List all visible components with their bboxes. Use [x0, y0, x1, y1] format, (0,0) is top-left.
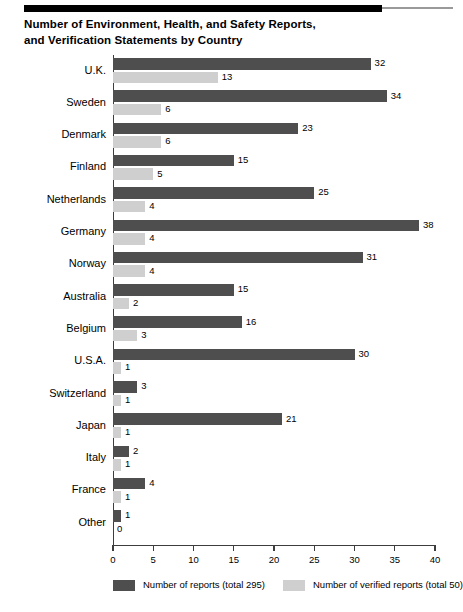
x-tick: [193, 545, 194, 551]
legend-label: Number of reports (total 295): [143, 579, 265, 590]
x-tick-label: 5: [138, 554, 168, 565]
bar-value-label: 6: [165, 103, 170, 114]
bar-value-label: 15: [238, 154, 249, 165]
bar-reports: [113, 349, 355, 361]
bar-value-label: 6: [165, 135, 170, 146]
x-tick: [354, 545, 355, 551]
x-tick-label: 35: [380, 554, 410, 565]
bar-value-label: 4: [149, 265, 154, 276]
bar-verified-reports: [113, 72, 218, 84]
x-tick: [434, 545, 435, 551]
category-label: Norway: [0, 257, 106, 269]
chart-row: U.S.A.301: [0, 349, 453, 374]
bar-value-label: 3: [141, 329, 146, 340]
category-label: Belgium: [0, 322, 106, 334]
bar-verified-reports: [113, 201, 145, 213]
x-tick: [273, 545, 274, 551]
bar-reports: [113, 316, 242, 328]
bar-reports: [113, 510, 121, 522]
chart-legend: Number of reports (total 295)Number of v…: [0, 578, 453, 598]
bar-value-label: 23: [302, 122, 313, 133]
x-tick-label: 40: [420, 554, 450, 565]
category-label: Finland: [0, 160, 106, 172]
bar-value-label: 1: [125, 426, 130, 437]
bar-value-label: 4: [149, 477, 154, 488]
bar-value-label: 34: [391, 90, 402, 101]
bar-verified-reports: [113, 265, 145, 277]
chart-row: Switzerland31: [0, 381, 453, 406]
bar-reports: [113, 478, 145, 490]
bar-value-label: 38: [423, 219, 434, 230]
legend-swatch-verified: [283, 580, 305, 591]
header-hairline: [382, 7, 453, 9]
bar-verified-reports: [113, 136, 161, 148]
category-label: U.K.: [0, 64, 106, 76]
chart-row: Netherlands254: [0, 187, 453, 212]
bar-value-label: 4: [149, 200, 154, 211]
chart-row: Other10: [0, 510, 453, 535]
bar-verified-reports: [113, 395, 121, 407]
legend-label: Number of verified reports (total 50): [313, 579, 463, 590]
category-label: Sweden: [0, 96, 106, 108]
x-tick-label: 20: [259, 554, 289, 565]
x-tick-label: 0: [98, 554, 128, 565]
bar-reports: [113, 252, 363, 264]
category-label: Germany: [0, 225, 106, 237]
chart-row: Norway314: [0, 252, 453, 277]
bar-reports: [113, 413, 282, 425]
bar-verified-reports: [113, 298, 129, 310]
bar-value-label: 1: [125, 458, 130, 469]
category-label: France: [0, 483, 106, 495]
chart-row: Finland155: [0, 155, 453, 180]
bar-value-label: 3: [141, 380, 146, 391]
bar-value-label: 2: [133, 445, 138, 456]
category-label: Switzerland: [0, 387, 106, 399]
bar-verified-reports: [113, 104, 161, 116]
page-title: Number of Environment, Health, and Safet…: [24, 16, 434, 48]
bar-reports: [113, 155, 234, 167]
x-tick-label: 30: [340, 554, 370, 565]
category-label: Australia: [0, 290, 106, 302]
x-tick: [112, 545, 113, 551]
bar-value-label: 5: [157, 168, 162, 179]
bar-verified-reports: [113, 491, 121, 503]
x-tick: [314, 545, 315, 551]
category-label: Japan: [0, 419, 106, 431]
bar-value-label: 2: [133, 297, 138, 308]
x-tick: [153, 545, 154, 551]
page-title-line-1: Number of Environment, Health, and Safet…: [24, 16, 434, 32]
x-tick: [233, 545, 234, 551]
bar-value-label: 1: [125, 509, 130, 520]
category-label: Other: [0, 516, 106, 528]
chart-row: Sweden346: [0, 90, 453, 115]
bar-verified-reports: [113, 427, 121, 439]
bar-value-label: 32: [375, 57, 386, 68]
bar-verified-reports: [113, 330, 137, 342]
chart-row: France41: [0, 478, 453, 503]
bar-value-label: 13: [222, 71, 233, 82]
bar-reports: [113, 446, 129, 458]
chart-row: Japan211: [0, 413, 453, 438]
bar-verified-reports: [113, 168, 153, 180]
chart-row: Denmark236: [0, 123, 453, 148]
bar-value-label: 30: [359, 348, 370, 359]
bar-value-label: 4: [149, 232, 154, 243]
x-tick-label: 15: [219, 554, 249, 565]
header-rule: [24, 5, 382, 12]
chart-row: Germany384: [0, 220, 453, 245]
bar-reports: [113, 58, 371, 70]
bar-reports: [113, 220, 419, 232]
bar-value-label: 1: [125, 361, 130, 372]
category-label: Denmark: [0, 128, 106, 140]
bar-value-label: 1: [125, 491, 130, 502]
bar-value-label: 25: [318, 186, 329, 197]
chart-row: Australia152: [0, 284, 453, 309]
bar-verified-reports: [113, 362, 121, 374]
legend-swatch-reports: [113, 580, 135, 591]
category-label: Italy: [0, 451, 106, 463]
bar-value-label: 15: [238, 283, 249, 294]
plot-area: 0510152025303540 U.K.3213Sweden346Denmar…: [0, 55, 453, 550]
category-label: U.S.A.: [0, 354, 106, 366]
page-title-line-2: and Verification Statements by Country: [24, 32, 434, 48]
